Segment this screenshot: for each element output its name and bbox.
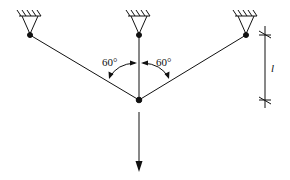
left-bar: [30, 35, 139, 100]
dimension-label: l: [271, 63, 274, 74]
load-arrow-icon: [136, 112, 143, 172]
left-pin-support-icon: [17, 10, 41, 38]
right-pin-support-icon: [233, 10, 257, 38]
right-angle-label: 60°: [156, 57, 171, 68]
dimension-line: [259, 26, 271, 108]
joint-node: [136, 97, 142, 103]
left-angle-label: 60°: [102, 57, 117, 68]
center-pin-support-icon: [126, 10, 150, 38]
truss-diagram: [0, 0, 290, 180]
